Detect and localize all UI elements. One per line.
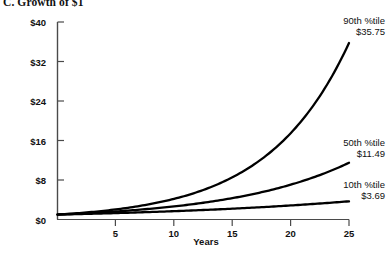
series-line-90th-percentile (58, 43, 350, 215)
annotation-50th-percentile-value: $11.49 (343, 149, 385, 160)
annotation-90th-percentile: 90th %tile $35.75 (343, 16, 385, 37)
y-tick-label-8: $8 (12, 175, 46, 186)
plot-area (0, 0, 388, 259)
growth-of-dollar-chart: C. Growth of $1 $40 $32 (0, 0, 388, 259)
series-line-50th-percentile (58, 163, 350, 215)
annotation-50th-percentile: 50th %tile $11.49 (343, 138, 385, 159)
annotation-10th-percentile-value: $3.69 (343, 191, 385, 202)
y-axis-ticks (58, 22, 65, 180)
y-tick-label-24: $24 (12, 96, 46, 107)
y-tick-label-32: $32 (12, 57, 46, 68)
annotation-90th-percentile-value: $35.75 (343, 27, 385, 38)
y-tick-label-16: $16 (12, 136, 46, 147)
x-axis-ticks (115, 220, 349, 227)
y-tick-label-0: $0 (12, 215, 46, 226)
y-tick-label-40: $40 (12, 17, 46, 28)
annotation-10th-percentile: 10th %tile $3.69 (343, 180, 385, 201)
annotation-50th-percentile-name: 50th %tile (343, 138, 385, 149)
x-axis-title: Years (0, 236, 388, 247)
annotation-10th-percentile-name: 10th %tile (343, 180, 385, 191)
x-axis-title-text: Years (193, 236, 218, 247)
annotation-90th-percentile-name: 90th %tile (343, 16, 385, 27)
